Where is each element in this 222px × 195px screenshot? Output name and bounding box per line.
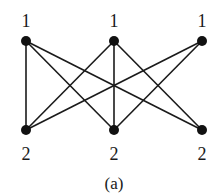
- graph-canvas: 111222 (a): [0, 0, 222, 195]
- node-t1: [21, 36, 31, 46]
- node-label-t3: 1: [198, 11, 207, 31]
- node-b2: [109, 125, 119, 135]
- node-label-b3: 2: [198, 144, 207, 164]
- node-t2: [109, 36, 119, 46]
- node-b3: [197, 125, 207, 135]
- node-label-b1: 2: [22, 144, 31, 164]
- node-b1: [21, 125, 31, 135]
- edge-layer: [26, 41, 202, 130]
- bipartite-graph-figure: 111222 (a): [0, 0, 222, 195]
- node-label-t2: 1: [110, 11, 119, 31]
- node-label-t1: 1: [22, 11, 31, 31]
- node-label-b2: 2: [110, 144, 119, 164]
- figure-caption: (a): [105, 174, 124, 193]
- node-t3: [197, 36, 207, 46]
